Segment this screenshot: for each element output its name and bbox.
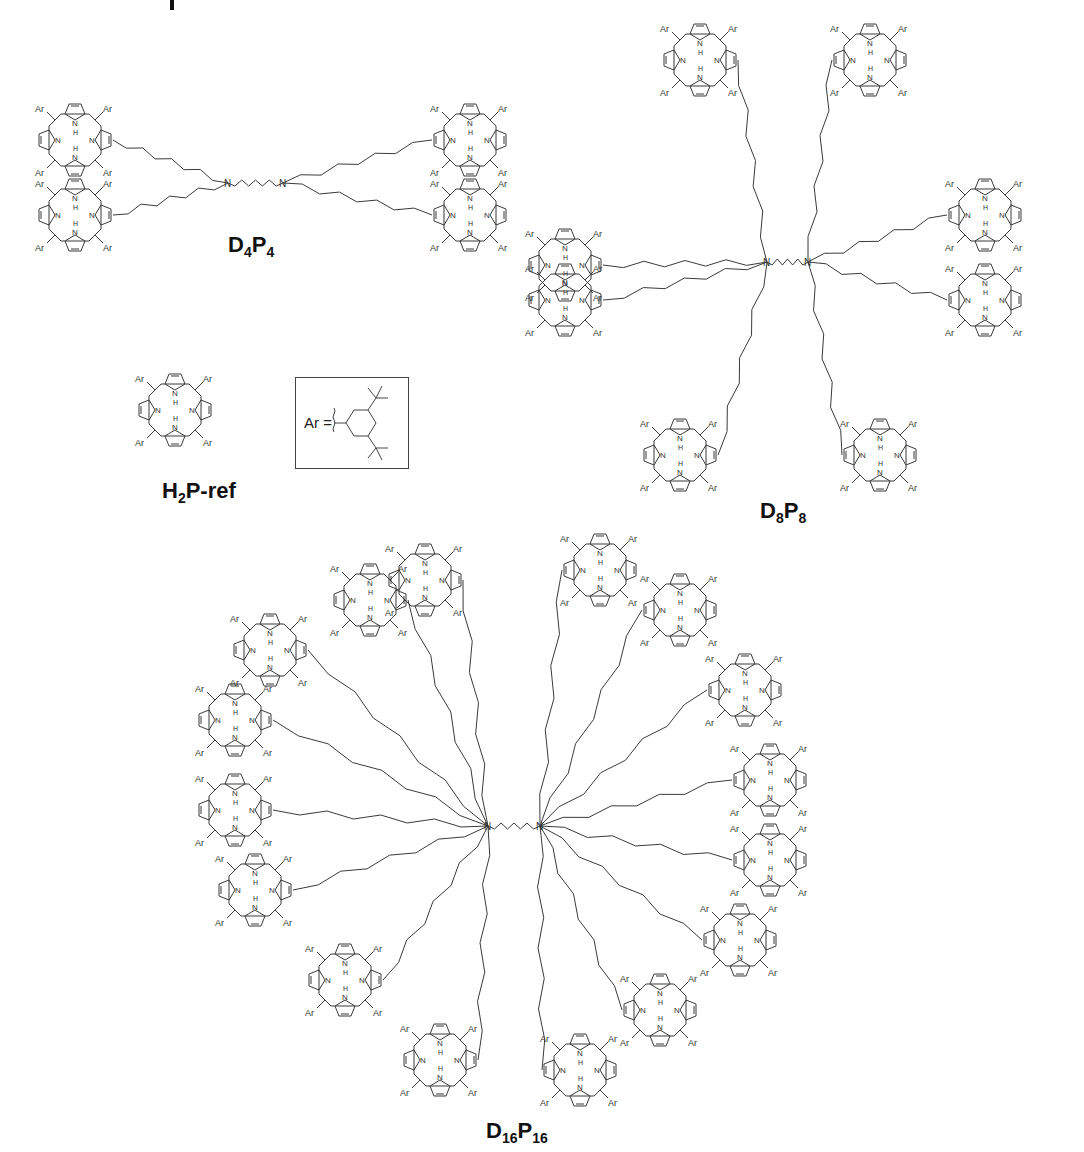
- linker-chain: [540, 570, 562, 826]
- porphyrin-d16p16: [640, 574, 717, 648]
- linker-chain: [408, 600, 488, 826]
- compound-label-d16p16: D16P16: [486, 1118, 548, 1146]
- porphyrin-d16p16: [730, 744, 807, 818]
- porphyrin-d16p16: [400, 1024, 477, 1098]
- porphyrin-d16p16: [730, 824, 807, 898]
- amine-node: N: [484, 821, 491, 832]
- porphyrin-d16p16: [215, 854, 292, 928]
- porphyrin-d16p16: [540, 1034, 617, 1108]
- linker-chain: [478, 826, 490, 1060]
- linker-chain: [113, 140, 228, 183]
- porphyrin-d16p16: [620, 974, 697, 1048]
- porphyrin-d16p16: [195, 684, 272, 758]
- linker-chain: [767, 259, 808, 265]
- linker-chain: [540, 826, 622, 1010]
- linker-chain: [383, 826, 488, 980]
- linker-chain: [308, 650, 488, 826]
- amine-core-nodes: NNNNNN: [224, 178, 811, 832]
- structure-diagram: Ar Ar Ar Ar N N N N H H NNNNNN: [0, 0, 1084, 1152]
- linker-chain: [808, 60, 832, 262]
- linker-chain: [540, 610, 642, 826]
- porphyrin-d4p4: [35, 104, 112, 178]
- linker-chain: [463, 580, 488, 826]
- porphyrin-d8p8: [945, 179, 1022, 253]
- porphyrin-d16p16: [330, 564, 407, 638]
- linker-chain: [283, 183, 432, 215]
- porphyrin-d16p16: [230, 614, 307, 688]
- tert-butylphenyl-icon: [296, 378, 408, 468]
- porphyrin-d8p8: [660, 24, 737, 98]
- porphyrin-d4p4: [35, 179, 112, 253]
- porphyrin-d16p16: [560, 534, 637, 608]
- porphyrin-d8p8: [640, 419, 717, 493]
- linker-chain: [228, 180, 283, 186]
- linker-chain: [540, 780, 732, 826]
- porphyrin-d16p16: [705, 654, 782, 728]
- amine-node: N: [224, 178, 231, 189]
- porphyrin-d4p4: [430, 179, 507, 253]
- amine-node: N: [279, 178, 286, 189]
- porphyrin-h2p-ref: [135, 374, 212, 448]
- linker-chain: [283, 140, 432, 183]
- linker-chains: [113, 60, 947, 1070]
- figure-canvas: Ar Ar Ar Ar N N N N H H NNNNNN Ar =: [0, 0, 1084, 1152]
- linker-chain: [808, 262, 842, 455]
- amine-node: N: [763, 257, 770, 268]
- porphyrin-d16p16: [700, 904, 777, 978]
- porphyrin-units: [35, 24, 1022, 1108]
- porphyrin-d16p16: [195, 774, 272, 848]
- linker-chain: [808, 215, 947, 262]
- linker-chain: [540, 826, 702, 940]
- compound-label-h2p-ref: H2P-ref: [162, 478, 236, 506]
- linker-chain: [113, 183, 228, 215]
- amine-node: N: [804, 257, 811, 268]
- linker-chain: [603, 262, 767, 300]
- amine-node: N: [536, 821, 543, 832]
- compound-label-d8p8: D8P8: [760, 498, 806, 526]
- compound-label-d4p4: D4P4: [228, 232, 274, 260]
- porphyrin-d8p8: [840, 419, 917, 493]
- linker-chain: [273, 720, 488, 826]
- porphyrin-d8p8: [945, 264, 1022, 338]
- porphyrin-d16p16: [385, 544, 462, 618]
- porphyrin-d16p16: [305, 944, 382, 1018]
- linker-chain: [738, 60, 767, 262]
- porphyrin-d4p4: [430, 104, 507, 178]
- linker-chain: [603, 260, 767, 268]
- linker-chain: [293, 826, 488, 890]
- linker-chain: [488, 823, 540, 829]
- linker-chain: [808, 262, 947, 300]
- porphyrin-d8p8: [830, 24, 907, 98]
- ar-definition-box: Ar =: [295, 377, 409, 469]
- linker-chain: [540, 826, 732, 860]
- linker-chain: [718, 262, 767, 455]
